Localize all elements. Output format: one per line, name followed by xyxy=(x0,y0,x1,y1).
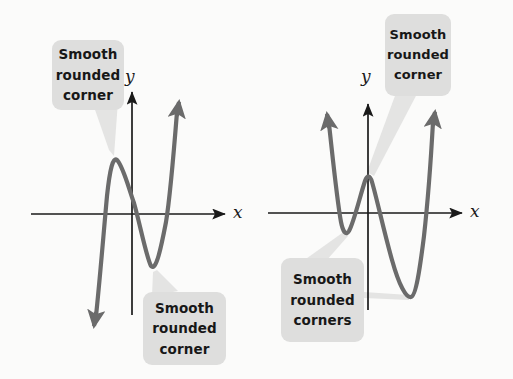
math-figure-smooth-rounded-corners: y x y x Smooth rounded corner Smooth rou… xyxy=(0,0,513,379)
callout-left-bottom-smooth-rounded-corner: Smooth rounded corner xyxy=(143,292,226,365)
callout-left-top-line3: corner xyxy=(63,85,113,106)
callout-left-bottom-line2: rounded xyxy=(152,318,216,339)
leader-lines xyxy=(93,92,418,300)
callout-right-bottom-smooth-rounded-corners: Smooth rounded corners xyxy=(281,258,364,342)
right-y-axis-label: y xyxy=(361,66,371,86)
left-curve-arrow-down xyxy=(94,312,96,326)
right-curve-arrow-up-right xyxy=(433,112,435,126)
left-curve-arrow-up xyxy=(177,102,179,116)
right-x-axis-label: x xyxy=(470,201,480,221)
left-x-axis-label: x xyxy=(233,202,243,222)
right-curve-arrow-up-left xyxy=(327,114,329,128)
callout-right-bottom-line3: corners xyxy=(293,310,351,331)
callout-left-bottom-line3: corner xyxy=(160,339,210,360)
callout-right-top-line1: Smooth xyxy=(390,25,447,45)
callout-right-bottom-line1: Smooth xyxy=(293,269,352,290)
callout-right-top-line2: rounded xyxy=(387,45,449,65)
leader-line-right-bottom-right xyxy=(364,292,409,300)
callout-left-top-line1: Smooth xyxy=(58,44,117,65)
left-graph xyxy=(31,92,225,326)
leader-line-right-top xyxy=(367,92,418,176)
callout-right-top-line3: corner xyxy=(394,65,442,85)
callout-right-top-smooth-rounded-corner: Smooth rounded corner xyxy=(385,14,451,96)
leader-line-right-bottom-left xyxy=(303,231,348,261)
callout-left-bottom-line1: Smooth xyxy=(155,298,214,319)
callout-left-top-smooth-rounded-corner: Smooth rounded corner xyxy=(52,40,124,110)
callout-left-top-line2: rounded xyxy=(56,65,120,86)
left-y-axis-label: y xyxy=(125,66,135,86)
callout-right-bottom-line2: rounded xyxy=(290,290,354,311)
